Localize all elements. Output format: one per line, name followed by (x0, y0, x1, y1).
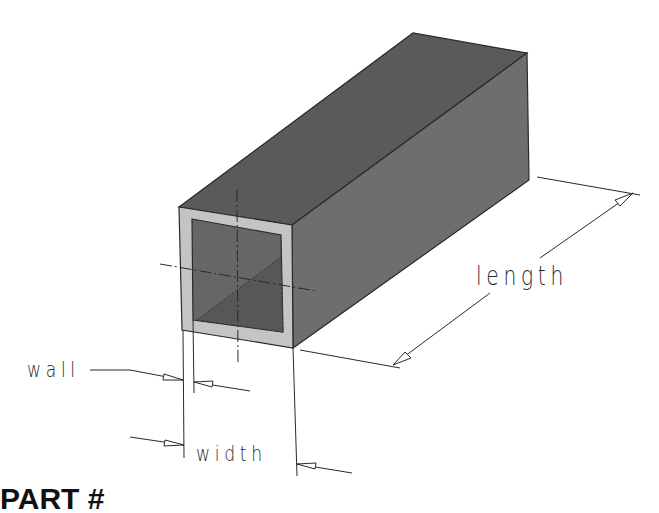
arrow-head-icon (297, 463, 316, 469)
wall-dimension (90, 320, 250, 458)
arrow-head-icon (163, 374, 183, 380)
figure-caption-cropped: PART # (0, 484, 104, 513)
wall-label: wall (27, 359, 80, 381)
arrow-head-icon (194, 381, 213, 387)
width-label: width (196, 443, 267, 465)
arrow-head-icon (164, 440, 184, 446)
length-label: length (476, 263, 568, 289)
